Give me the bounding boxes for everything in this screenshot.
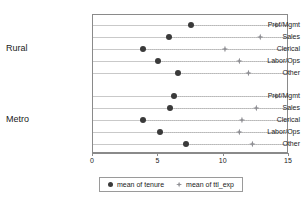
- chart-legend: mean of tenure mean of ttl_exp: [99, 177, 243, 192]
- data-point-tenure: [166, 34, 172, 40]
- data-point-tenure: [167, 105, 173, 111]
- data-point-tenure: [140, 117, 146, 123]
- y-axis-label: Clerical: [215, 45, 303, 52]
- y-axis-label: Prof/Mgmt: [215, 21, 303, 28]
- y-axis-label: Clerical: [215, 116, 303, 123]
- x-axis: [92, 153, 288, 154]
- x-tick-label: 5: [155, 157, 159, 164]
- data-point-tenure: [140, 46, 146, 52]
- dot-plot-chart: Prof/MgmtSalesClericalLabor/OpsOtherProf…: [0, 0, 303, 201]
- y-axis-label: Labor/Ops: [215, 57, 303, 64]
- data-point-tenure: [157, 129, 163, 135]
- legend-label-ttl-exp: mean of ttl_exp: [186, 181, 234, 188]
- y-axis-label: Labor/Ops: [215, 128, 303, 135]
- group-label-metro: Metro: [6, 114, 29, 124]
- y-axis-label: Other: [215, 69, 303, 76]
- x-tick: [157, 153, 158, 156]
- y-axis-label: Prof/Mgmt: [215, 92, 303, 99]
- data-point-tenure: [155, 58, 161, 64]
- data-point-tenure: [171, 93, 177, 99]
- data-point-tenure: [188, 22, 194, 28]
- group-label-rural: Rural: [6, 43, 28, 53]
- circle-marker-icon: [108, 182, 113, 187]
- legend-item-tenure: mean of tenure: [108, 181, 164, 188]
- x-tick: [223, 153, 224, 156]
- x-tick: [288, 153, 289, 156]
- diamond-marker-icon: [176, 182, 182, 188]
- y-axis-label: Sales: [215, 104, 303, 111]
- data-point-tenure: [183, 141, 189, 147]
- x-tick-label: 15: [284, 157, 292, 164]
- legend-label-tenure: mean of tenure: [117, 181, 164, 188]
- legend-item-ttl-exp: mean of ttl_exp: [176, 181, 234, 188]
- y-axis-label: Sales: [215, 33, 303, 40]
- data-point-tenure: [175, 70, 181, 76]
- x-tick-label: 0: [90, 157, 94, 164]
- x-tick: [92, 153, 93, 156]
- y-axis-label: Other: [215, 140, 303, 147]
- x-tick-label: 10: [219, 157, 227, 164]
